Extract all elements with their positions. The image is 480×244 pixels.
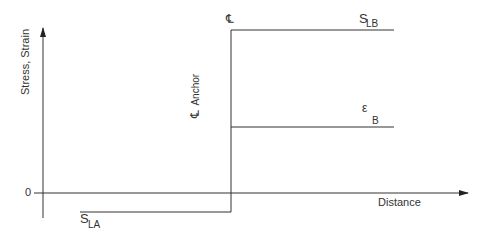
strain-b-symbol: ε	[362, 101, 367, 115]
stress-b-subscript: LB	[366, 18, 378, 29]
anchor-centerline-label-group: ℄ Anchor	[185, 74, 203, 118]
strain-b-subscript: B	[372, 115, 379, 126]
anchor-label: Anchor	[190, 74, 201, 106]
anchor-centerline-symbol: ℄	[188, 110, 202, 118]
x-axis-label: Distance	[378, 196, 421, 208]
stress-a-subscript: LA	[88, 219, 100, 230]
y-axis-label: Stress, Strain	[19, 29, 31, 95]
zero-label: 0	[25, 186, 31, 198]
centerline-top-symbol: ℄	[226, 12, 234, 26]
